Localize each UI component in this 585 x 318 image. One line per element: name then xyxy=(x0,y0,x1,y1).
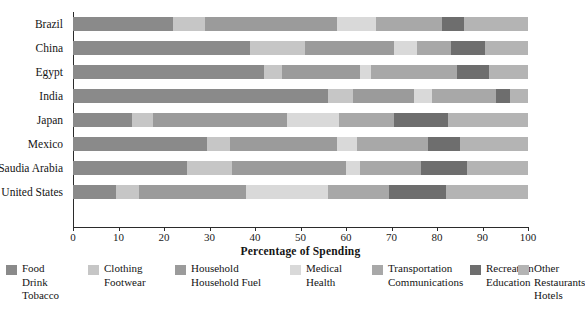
bar-segment xyxy=(246,185,328,199)
bar-segment xyxy=(250,41,305,55)
bar-segment xyxy=(371,65,457,79)
legend-label-line: Other xyxy=(534,262,585,276)
legend-label-line: Medical xyxy=(306,262,342,276)
bar-segment xyxy=(357,137,428,151)
legend-label-line: Transportation xyxy=(388,262,463,276)
bar-segment xyxy=(451,41,485,55)
legend-swatch xyxy=(290,265,301,275)
bar-segment xyxy=(460,137,528,151)
bar-segment xyxy=(173,17,205,31)
bar-segment xyxy=(73,41,250,55)
x-tick-label: 20 xyxy=(149,231,179,243)
x-tick-label: 70 xyxy=(377,231,407,243)
bar-segment xyxy=(73,17,173,31)
bar-segment xyxy=(510,89,528,103)
x-tick-label: 0 xyxy=(58,231,88,243)
bar-segment xyxy=(353,89,414,103)
bar-segment xyxy=(446,185,528,199)
category-label: Saudia Arabia xyxy=(0,162,63,175)
legend-swatch xyxy=(518,265,529,275)
bar-segment xyxy=(414,89,432,103)
legend-label: FoodDrinkTobacco xyxy=(22,262,59,303)
legend-label-line: Footwear xyxy=(104,276,146,290)
bar-segment xyxy=(360,65,371,79)
bar-row xyxy=(73,161,528,175)
chart-legend: FoodDrinkTobaccoClothingFootwearHousehol… xyxy=(0,262,552,318)
x-tick-label: 60 xyxy=(331,231,361,243)
bar-row xyxy=(73,41,528,55)
bar-segment xyxy=(457,65,489,79)
bar-row xyxy=(73,89,528,103)
bar-segment xyxy=(489,65,528,79)
x-tick-label: 50 xyxy=(286,231,316,243)
bar-row xyxy=(73,113,528,127)
legend-label-line: Household Fuel xyxy=(191,276,261,290)
bar-segment xyxy=(337,137,357,151)
x-tick-label: 100 xyxy=(513,231,543,243)
x-tick-label: 10 xyxy=(104,231,134,243)
legend-label-line: Education xyxy=(486,276,534,290)
bar-segment xyxy=(205,17,337,31)
bar-segment xyxy=(282,65,359,79)
legend-label-line: Communications xyxy=(388,276,463,290)
bar-segment xyxy=(230,137,337,151)
bar-segment xyxy=(207,137,230,151)
bar-segment xyxy=(417,41,451,55)
bar-row xyxy=(73,65,528,79)
y-axis-category-labels: BrazilChinaEgyptIndiaJapanMexicoSaudia A… xyxy=(0,0,68,215)
bar-row xyxy=(73,137,528,151)
bar-segment xyxy=(467,161,528,175)
category-label: China xyxy=(36,42,63,55)
legend-swatch xyxy=(88,265,99,275)
legend-label: TransportationCommunications xyxy=(388,262,463,289)
bar-segment xyxy=(464,17,528,31)
legend-label-line: Clothing xyxy=(104,262,146,276)
legend-label-line: Drink xyxy=(22,276,59,290)
bar-segment xyxy=(346,161,360,175)
legend-label-line: Restaurants xyxy=(534,276,585,290)
bar-segment xyxy=(337,17,376,31)
legend-label: HouseholdHousehold Fuel xyxy=(191,262,261,289)
bar-segment xyxy=(328,89,353,103)
legend-label: ClothingFootwear xyxy=(104,262,146,289)
bar-segment xyxy=(73,65,264,79)
category-label: Egypt xyxy=(36,66,63,79)
bar-segment xyxy=(394,41,417,55)
legend-label: MedicalHealth xyxy=(306,262,342,289)
legend-label-line: Household xyxy=(191,262,261,276)
bar-segment xyxy=(264,65,282,79)
bar-segment xyxy=(339,113,394,127)
bar-segment xyxy=(73,161,187,175)
bar-segment xyxy=(394,113,449,127)
x-tick-label: 40 xyxy=(240,231,270,243)
category-label: Japan xyxy=(37,114,63,127)
bar-segment xyxy=(496,89,510,103)
category-label: Brazil xyxy=(35,18,63,31)
bar-segment xyxy=(485,41,528,55)
x-axis-title: Percentage of Spending xyxy=(73,245,528,257)
bar-segment xyxy=(442,17,465,31)
bar-segment xyxy=(360,161,421,175)
x-tick-label: 90 xyxy=(468,231,498,243)
bar-segment xyxy=(305,41,394,55)
legend-swatch xyxy=(175,265,186,275)
bar-segment xyxy=(73,113,132,127)
bar-segment xyxy=(132,113,152,127)
bar-segment xyxy=(389,185,446,199)
x-tick-label: 80 xyxy=(422,231,452,243)
x-tick-label: 30 xyxy=(195,231,225,243)
bar-segment xyxy=(448,113,528,127)
bar-segment xyxy=(232,161,346,175)
bar-segment xyxy=(432,89,496,103)
category-label: United States xyxy=(1,186,63,199)
legend-swatch xyxy=(6,265,17,275)
legend-label-line: Hotels xyxy=(534,289,585,303)
bar-row xyxy=(73,17,528,31)
bar-segment xyxy=(116,185,139,199)
bar-segment xyxy=(376,17,442,31)
legend-label-line: Health xyxy=(306,276,342,290)
bar-segment xyxy=(328,185,389,199)
category-label: Mexico xyxy=(28,138,63,151)
plot-area: 0102030405060708090100 BrazilChinaEgyptI… xyxy=(0,0,552,258)
